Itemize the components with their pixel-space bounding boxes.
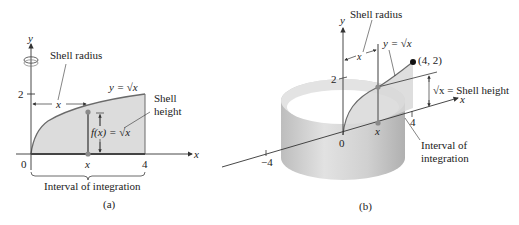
shell-height-label-2: height bbox=[154, 105, 182, 117]
shell-radius-label: Shell radius bbox=[350, 8, 402, 20]
interval-label: Interval of integration bbox=[44, 180, 141, 192]
radius-var: x bbox=[356, 51, 362, 62]
caption-a: (a) bbox=[103, 198, 116, 211]
tick-origin: 0 bbox=[339, 137, 345, 149]
shell-height-label-1: Shell bbox=[154, 92, 177, 104]
panel-a: x Shell radius f(x) = √x Shell height y … bbox=[16, 32, 199, 211]
tick-origin: 0 bbox=[21, 158, 27, 170]
shell-height-label: √x = Shell height bbox=[433, 84, 509, 96]
interval-label-1: Interval of bbox=[421, 139, 467, 151]
tick-x-4: 4 bbox=[410, 116, 416, 128]
tick-x: x bbox=[374, 125, 380, 137]
tick-x-4: 4 bbox=[142, 158, 148, 170]
caption-b: (b) bbox=[359, 200, 372, 213]
tick-y-2: 2 bbox=[18, 88, 24, 100]
curve-label: y = √x bbox=[382, 37, 412, 49]
x-axis-label: x bbox=[193, 148, 199, 160]
point-label: (4, 2) bbox=[418, 54, 442, 67]
point-4-2 bbox=[410, 59, 416, 65]
curve-label: y = √x bbox=[108, 81, 138, 93]
y-axis-label: y bbox=[27, 32, 33, 44]
x-point-marker bbox=[85, 151, 90, 156]
tick-y-2: 2 bbox=[331, 73, 337, 85]
interval-brace bbox=[31, 172, 145, 180]
tick-x-neg4: −4 bbox=[261, 156, 273, 168]
curve-point-marker bbox=[375, 84, 380, 89]
panel-b: x Shell radius y = √x (4, 2) √x = Shell … bbox=[222, 8, 509, 213]
curve-point-marker bbox=[85, 109, 90, 114]
tick-x: x bbox=[84, 158, 90, 170]
shell-radius-label: Shell radius bbox=[50, 49, 102, 61]
y-axis-label: y bbox=[339, 14, 345, 26]
interval-label-2: integration bbox=[421, 152, 469, 164]
x-axis-label: x bbox=[459, 93, 465, 105]
